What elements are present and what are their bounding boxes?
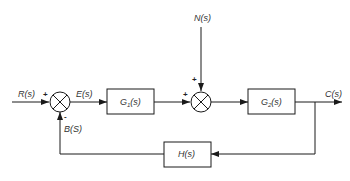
- summer1-minus-sign: -: [64, 112, 67, 121]
- block-g2: G2(s): [248, 89, 295, 114]
- feedback-label: B(S): [64, 124, 82, 134]
- block-h-label: H(s): [178, 149, 195, 159]
- summer2-left-plus-sign: +: [183, 90, 188, 99]
- block-h: H(s): [164, 142, 211, 167]
- block-g1: G1(s): [107, 89, 154, 114]
- block-g2-label: G2(s): [261, 97, 282, 108]
- block-diagram: R(s) + - E(s) G1(s) + N(s) +: [0, 0, 350, 181]
- input-label: R(s): [18, 89, 35, 99]
- summing-junction-2: [191, 92, 211, 112]
- block-g1-label: G1(s): [120, 97, 141, 108]
- output-label: C(s): [325, 89, 342, 99]
- error-label: E(s): [76, 89, 93, 99]
- disturbance-label: N(s): [194, 13, 211, 23]
- summing-junction-1: [50, 92, 70, 112]
- summer2-top-plus-sign: +: [192, 75, 197, 84]
- summer1-plus-sign: +: [43, 90, 48, 99]
